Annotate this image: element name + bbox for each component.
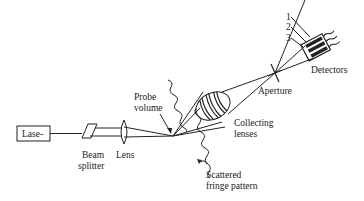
laser-label: Lase- <box>22 129 43 139</box>
scattered-label-2: fringe pattern <box>206 181 258 191</box>
beam-splitter-label-1: Beam <box>82 150 105 160</box>
scattered-fringe-pattern: Scattered fringe pattern <box>206 170 258 191</box>
collecting-lenses-label-1: Collecting <box>234 118 274 128</box>
leader-3 <box>291 38 303 47</box>
probe-volume-label-2: volume <box>134 103 163 113</box>
beam-splitter: Beam splitter <box>78 124 105 171</box>
converging-beam-1 <box>124 127 173 136</box>
converging-beam-2 <box>124 136 173 137</box>
probe-volume-label-1: Probe <box>134 92 156 102</box>
detector-number-3: 3 <box>286 33 291 43</box>
aperture-label: Aperture <box>258 86 292 96</box>
ldv-diagram: Lase- Beam splitter Lens Probe volume <box>0 0 364 201</box>
detector-number-1: 1 <box>286 12 291 22</box>
probe-volume: Probe volume <box>134 92 172 134</box>
laser: Lase- <box>17 126 50 141</box>
beam-splitter-label-2: splitter <box>78 161 105 171</box>
detectors-label: Detectors <box>311 65 348 75</box>
detector-number-2: 2 <box>286 22 291 32</box>
detector-cone-lower <box>275 58 314 73</box>
focusing-lens: Lens <box>116 120 135 160</box>
collecting-lenses-label-2: lenses <box>234 129 258 139</box>
lens-label: Lens <box>116 150 135 160</box>
scattered-label-1: Scattered <box>206 170 242 180</box>
